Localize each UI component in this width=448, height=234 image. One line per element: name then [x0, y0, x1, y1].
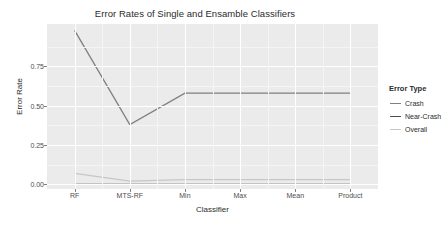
x-tick-mark	[130, 189, 131, 192]
legend-item-crash[interactable]: Crash	[389, 98, 448, 109]
legend-key-swatch	[389, 98, 402, 109]
legend-key-swatch	[389, 124, 402, 135]
legend-item-overall[interactable]: Overall	[389, 124, 448, 135]
x-tick-label: Max	[233, 192, 246, 199]
gridline-major-vertical	[350, 24, 351, 189]
x-tick-mark	[185, 189, 186, 192]
x-tick-label: Product	[338, 192, 362, 199]
legend-key-swatch	[389, 111, 402, 122]
y-tick-label: 0.00	[0, 181, 44, 188]
legend: Error Type CrashNear-CrashOverall	[389, 84, 448, 137]
gridline-major-vertical	[75, 24, 76, 189]
gridline-minor-vertical	[157, 24, 158, 189]
y-tick-mark	[44, 106, 47, 107]
x-tick-mark	[295, 189, 296, 192]
legend-title: Error Type	[389, 84, 448, 93]
gridline-major-vertical	[240, 24, 241, 189]
x-tick-mark	[75, 189, 76, 192]
x-tick-label: Mean	[287, 192, 305, 199]
gridline-major-vertical	[130, 24, 131, 189]
y-tick-mark	[44, 145, 47, 146]
x-axis-title: Classifier	[47, 205, 378, 214]
legend-label: Overall	[405, 126, 427, 133]
x-tick-mark	[350, 189, 351, 192]
legend-item-near-crash[interactable]: Near-Crash	[389, 111, 448, 122]
chart-container: Error Rates of Single and Ensamble Class…	[0, 0, 448, 234]
gridline-minor-vertical	[213, 24, 214, 189]
y-tick-mark	[44, 184, 47, 185]
x-tick-label: Min	[179, 192, 190, 199]
gridline-minor-vertical	[102, 24, 103, 189]
legend-label: Crash	[405, 100, 424, 107]
y-axis-title: Error Rate	[15, 47, 24, 147]
legend-label: Near-Crash	[405, 113, 441, 120]
legend-items: CrashNear-CrashOverall	[389, 98, 448, 135]
gridline-minor-vertical	[323, 24, 324, 189]
plot-panel	[47, 24, 378, 189]
x-tick-label: RF	[70, 192, 79, 199]
x-tick-mark	[240, 189, 241, 192]
y-tick-mark	[44, 66, 47, 67]
gridline-major-vertical	[185, 24, 186, 189]
gridline-major-vertical	[295, 24, 296, 189]
chart-title: Error Rates of Single and Ensamble Class…	[0, 8, 390, 19]
gridline-minor-vertical	[268, 24, 269, 189]
x-tick-label: MTS-RF	[117, 192, 143, 199]
